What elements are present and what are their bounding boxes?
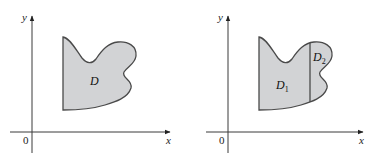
origin-label: 0 [23,134,29,146]
right-panel: y 0 x D1 D2 [206,11,364,153]
left-panel: y 0 x D [10,11,171,153]
region-d [63,37,136,110]
x-axis-label: x [165,134,171,146]
y-axis-label: y [217,11,223,23]
region-label-d: D [89,74,99,88]
x-axis-label: x [358,134,364,146]
region-d-whole [259,37,332,110]
diagram-canvas: y 0 x D y 0 x D1 D2 [0,0,370,164]
origin-label: 0 [219,134,225,146]
y-axis-label: y [21,11,27,23]
